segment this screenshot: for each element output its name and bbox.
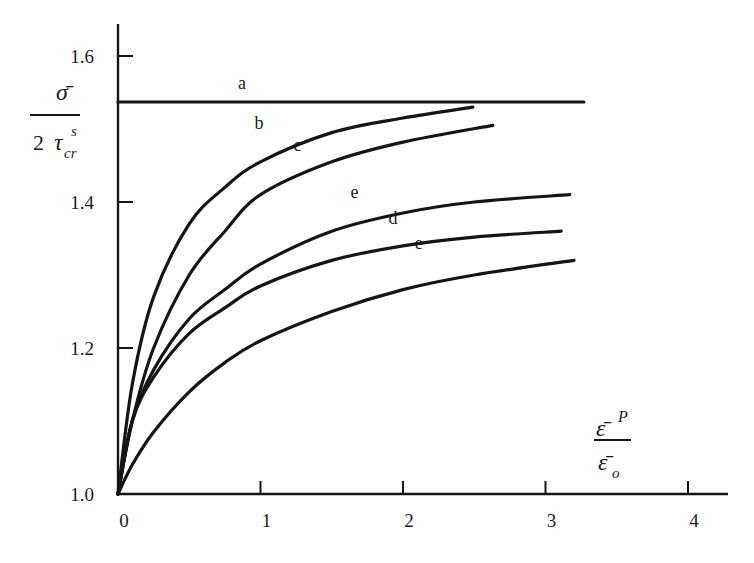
curve-b [118, 107, 473, 494]
curves [118, 102, 584, 494]
y-axis-title-superscript: s [71, 123, 77, 139]
curve-e-lower [118, 260, 574, 494]
y-tick-label: 1.6 [70, 46, 94, 67]
curve-label-d: d [389, 208, 398, 228]
stress-strain-chart: 1.01.21.41.6 01234 abcede σ̄ 2 τ cr s ε̄… [0, 0, 754, 563]
y-tick-label: 1.0 [70, 484, 94, 505]
y-tick-label: 1.2 [70, 338, 94, 359]
curve-label-c: c [294, 135, 302, 155]
y-axis-title-numerator: σ̄ [56, 79, 74, 105]
curve-label-b: b [255, 113, 264, 133]
y-axis-title: σ̄ 2 τ cr s [30, 79, 80, 161]
curve-label-e: e [351, 182, 359, 202]
x-axis-title-superscript: P [617, 408, 628, 425]
x-ticks: 01234 [119, 481, 699, 531]
y-tick-label: 1.4 [70, 192, 94, 213]
y-axis-title-denominator-number: 2 [33, 130, 44, 155]
x-tick-label: 1 [262, 510, 272, 531]
curve-e-upper [118, 195, 570, 494]
x-tick-label: 2 [404, 510, 414, 531]
curve-c [118, 125, 493, 494]
curve-label-a: a [238, 73, 246, 93]
x-axis-title: ε̄ P ε̄ o [594, 408, 631, 481]
x-axis-title-numerator: ε̄ [596, 415, 611, 441]
y-axis-title-tau: τ [54, 129, 64, 155]
x-tick-label: 4 [689, 510, 699, 531]
x-tick-label: 3 [547, 510, 557, 531]
curve-label-e: e [415, 233, 423, 253]
x-axis-title-subscript: o [612, 465, 620, 481]
x-tick-label: 0 [119, 510, 129, 531]
y-axis-title-subscript: cr [64, 145, 77, 161]
